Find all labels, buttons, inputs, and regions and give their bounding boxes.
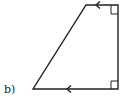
trapezoid-shape: [33, 5, 118, 89]
trapezoid-diagram: b): [0, 0, 121, 101]
figure-label: b): [4, 83, 15, 96]
right-angle-top-marker: [111, 5, 118, 14]
right-angle-bottom-marker: [111, 81, 118, 89]
